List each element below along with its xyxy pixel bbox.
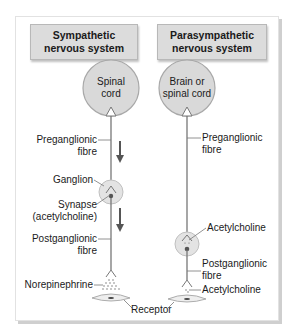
parasympathetic-postganglionic-label: Postganglionic fibre [202, 258, 267, 282]
label-line1: Preganglionic [202, 132, 263, 144]
origin-line1: Spinal [86, 76, 136, 88]
brain-spinal-cord-label: Brain or spinal cord [159, 76, 215, 100]
receptor-acetylcholine-label: Acetylcholine [202, 284, 261, 296]
ganglion-acetylcholine-label: Acetylcholine [207, 222, 266, 234]
direction-arrow-icon [116, 208, 124, 232]
ganglion-label: Ganglion [53, 174, 93, 186]
origin-line2: spinal cord [159, 88, 215, 100]
neurotransmitter-dots-icon [102, 279, 119, 289]
parasympathetic-preganglionic-label: Preganglionic fibre [202, 132, 263, 156]
receptor-nucleus-icon [108, 297, 114, 299]
axon-terminal-icon [106, 270, 116, 277]
synapse-label: Synapse (acetylcholine) [33, 199, 97, 223]
label-line1: Preganglionic [36, 134, 97, 146]
norepinephrine-label: Norepinephrine [25, 279, 93, 291]
label-line1: Postganglionic [202, 258, 267, 270]
receptor-label: Receptor [131, 304, 172, 316]
label-line2: fibre [202, 144, 263, 156]
label-line1: Postganglionic [32, 233, 97, 245]
label-line2: (acetylcholine) [33, 211, 97, 223]
origin-line2: cord [86, 88, 136, 100]
origin-line1: Brain or [159, 76, 215, 88]
label-line2: fibre [36, 146, 97, 158]
sympathetic-postganglionic-label: Postganglionic fibre [32, 233, 97, 257]
receptor-nucleus-icon [184, 298, 190, 300]
label-line2: fibre [202, 270, 267, 282]
spinal-cord-label: Spinal cord [86, 76, 136, 100]
direction-arrow-icon [116, 141, 124, 163]
synapse-dot-icon [109, 194, 113, 198]
label-line1: Synapse [33, 199, 97, 211]
sympathetic-preganglionic-label: Preganglionic fibre [36, 134, 97, 158]
axon-terminal-icon [182, 280, 192, 287]
label-line2: fibre [32, 245, 97, 257]
